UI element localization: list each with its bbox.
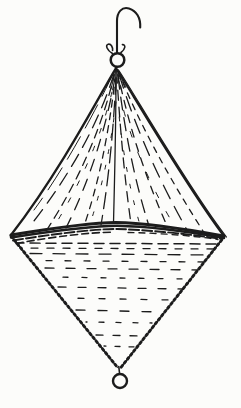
bottom-ring — [113, 374, 127, 388]
illustration-figure: Hand-drawn ink sketch of a canvas diamon… — [0, 0, 241, 408]
diamond-shape-drawing: Hand-drawn ink sketch of a canvas diamon… — [0, 0, 241, 408]
swivel-fitting — [107, 44, 125, 53]
hook-icon — [117, 8, 140, 53]
upper-cone — [11, 68, 227, 237]
beaded-edges — [11, 236, 224, 368]
lower-cone — [11, 236, 224, 374]
scanned-page: Hand-drawn ink sketch of a canvas diamon… — [0, 0, 241, 408]
mid-seam — [11, 223, 224, 244]
top-ring — [111, 53, 125, 67]
